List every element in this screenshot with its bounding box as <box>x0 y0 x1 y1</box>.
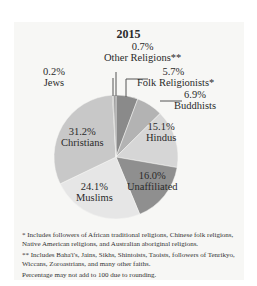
footnotes: * Includes followers of African traditio… <box>22 231 247 282</box>
label-other: 0.7%Other Religions** <box>104 41 181 63</box>
label-buddhists: 6.9%Buddhists <box>174 89 216 111</box>
label-muslims: 24.1%Muslims <box>76 181 113 203</box>
label-unaffiliated: 16.0%Unaffiliated <box>127 170 178 192</box>
footnote-3: Percentage may not add to 100 due to rou… <box>22 271 247 280</box>
label-hindus: 15.1%Hindus <box>146 121 176 143</box>
footnote-1: * Includes followers of African traditio… <box>22 231 247 249</box>
footnote-2: ** Includes Baha'i's, Jains, Sikhs, Shin… <box>22 251 247 269</box>
label-jews: 0.2%Jews <box>43 66 65 88</box>
label-christians: 31.2%Christians <box>61 126 104 148</box>
label-folk: 5.7%Folk Religionists* <box>137 66 214 88</box>
